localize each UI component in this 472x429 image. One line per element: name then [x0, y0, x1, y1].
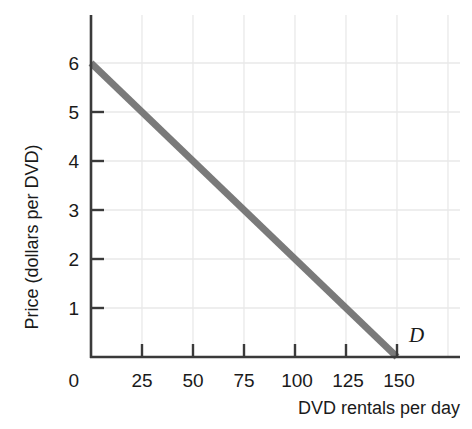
- x-tick-label-75: 75: [233, 370, 254, 391]
- y-tick-label-3: 3: [68, 200, 79, 221]
- x-tick-label-125: 125: [332, 370, 364, 391]
- x-tick-label-25: 25: [131, 370, 152, 391]
- y-tick-label-0: 0: [68, 370, 79, 391]
- y-tick-label-6: 6: [68, 53, 79, 74]
- plot-background: [91, 15, 460, 357]
- x-tick-label-100: 100: [281, 370, 313, 391]
- x-tick-label-50: 50: [182, 370, 203, 391]
- y-tick-label-1: 1: [68, 298, 79, 319]
- x-tick-label-150: 150: [383, 370, 415, 391]
- demand-curve-label: D: [408, 323, 424, 347]
- y-tick-label-4: 4: [68, 151, 79, 172]
- y-tick-label-5: 5: [68, 102, 79, 123]
- chart-canvas: 6 5 4 3 2 1 0 25 50 75 100 125 150 D DVD…: [0, 0, 472, 429]
- x-axis-title: DVD rentals per day: [298, 398, 460, 418]
- y-axis-title: Price (dollars per DVD): [22, 144, 42, 329]
- y-tick-label-2: 2: [68, 249, 79, 270]
- demand-curve-chart: 6 5 4 3 2 1 0 25 50 75 100 125 150 D DVD…: [0, 0, 472, 429]
